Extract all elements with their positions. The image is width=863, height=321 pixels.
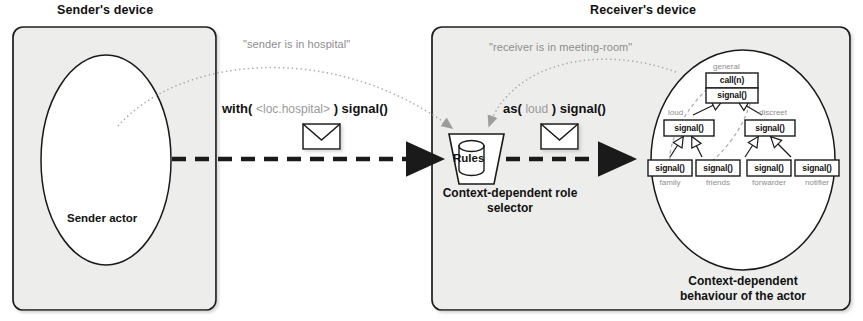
envelope-icon-2 <box>541 124 578 149</box>
role-name-forwarder: forwarder <box>747 178 791 187</box>
role-selector-caption-line1: Context-dependent role <box>415 186 605 201</box>
message-argument-1: <loc.hospital> <box>256 102 330 116</box>
role-name-discreet: discreet <box>759 108 787 117</box>
role-name-family: family <box>648 178 692 187</box>
role-name-loud: loud <box>668 108 683 117</box>
message-expression-2: as( loud ) signal() <box>503 101 606 116</box>
operation-forwarder-signal: signal() <box>747 163 791 173</box>
operation-general-signal: signal() <box>706 90 758 100</box>
behaviour-caption-line1: Context-dependent <box>648 274 838 289</box>
role-selector-caption: Context-dependent role selector <box>415 186 605 216</box>
rules-label: Rules <box>453 152 484 164</box>
message-prefix-1: with( <box>222 101 252 116</box>
message-argument-2: loud <box>525 102 548 116</box>
role-name-friends: friends <box>696 178 740 187</box>
role-selector-caption-line2: selector <box>415 201 605 216</box>
role-name-notifier: notifier <box>795 178 839 187</box>
context-note-sender: "sender is in hospital" <box>243 38 350 50</box>
diagram-vector-layer <box>0 0 863 321</box>
operation-discreet-signal: signal() <box>745 123 795 133</box>
behaviour-caption: Context-dependent behaviour of the actor <box>648 274 838 304</box>
operation-notifier-signal: signal() <box>795 163 839 173</box>
diagram-canvas: Sender's device Receiver's device "sende… <box>0 0 863 321</box>
sender-actor-label: Sender actor <box>67 212 137 224</box>
sender-actor-ellipse <box>41 55 171 265</box>
message-suffix-2: ) signal() <box>552 101 606 116</box>
operation-friends-signal: signal() <box>696 163 740 173</box>
operation-family-signal: signal() <box>648 163 692 173</box>
role-name-general: general <box>713 62 740 71</box>
message-prefix-2: as( <box>503 101 522 116</box>
envelope-icon-1 <box>303 124 340 149</box>
operation-general-call: call(n) <box>706 75 758 85</box>
receiver-device-title: Receiver's device <box>590 3 696 17</box>
sender-device-title: Sender's device <box>57 3 153 17</box>
message-expression-1: with( <loc.hospital> ) signal() <box>222 101 388 116</box>
context-note-receiver: "receiver is in meeting-room" <box>489 41 632 53</box>
message-suffix-1: ) signal() <box>334 101 388 116</box>
behaviour-caption-line2: behaviour of the actor <box>648 289 838 304</box>
operation-loud-signal: signal() <box>664 123 714 133</box>
